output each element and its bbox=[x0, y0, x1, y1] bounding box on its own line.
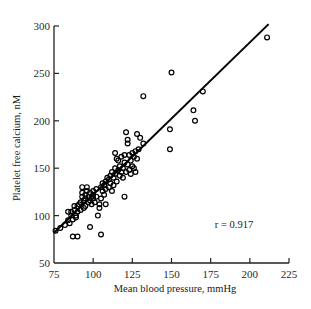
data-point bbox=[124, 130, 129, 135]
data-point bbox=[88, 225, 93, 230]
data-point bbox=[114, 179, 119, 184]
y-tick-label: 150 bbox=[34, 162, 51, 174]
data-point bbox=[103, 202, 108, 207]
data-point bbox=[80, 185, 85, 190]
data-point bbox=[113, 151, 118, 156]
axes bbox=[54, 26, 289, 263]
x-tick-label: 100 bbox=[85, 268, 102, 280]
data-point bbox=[193, 118, 198, 123]
scatter-chart: 50100150200250300 75100125150175200225 r… bbox=[0, 0, 311, 309]
data-point bbox=[265, 35, 270, 40]
x-tick-label: 175 bbox=[202, 268, 219, 280]
y-axis-label: Platelet free calcium, nM bbox=[11, 94, 22, 201]
data-point bbox=[70, 234, 75, 239]
y-tick-label: 100 bbox=[34, 210, 51, 222]
y-tick-label: 250 bbox=[34, 67, 51, 79]
x-tick-label: 200 bbox=[242, 268, 259, 280]
data-point bbox=[168, 127, 173, 132]
x-tick-label: 150 bbox=[163, 268, 180, 280]
data-point bbox=[191, 108, 196, 113]
data-point bbox=[95, 213, 100, 218]
y-tick-label: 200 bbox=[34, 115, 51, 127]
y-tick-label: 300 bbox=[34, 20, 51, 32]
data-point bbox=[99, 232, 104, 237]
data-point bbox=[138, 135, 143, 140]
x-tick-label: 75 bbox=[49, 268, 61, 280]
x-axis-ticks: 75100125150175200225 bbox=[49, 258, 298, 280]
data-point bbox=[141, 94, 146, 99]
data-point bbox=[110, 189, 115, 194]
data-point bbox=[168, 147, 173, 152]
data-point bbox=[200, 89, 205, 94]
data-point bbox=[75, 234, 80, 239]
x-tick-label: 225 bbox=[281, 268, 298, 280]
data-points bbox=[53, 35, 269, 239]
data-point bbox=[122, 194, 127, 199]
correlation-annotation: r = 0.917 bbox=[215, 219, 253, 230]
x-axis-label: Mean blood pressure, mmHg bbox=[114, 283, 237, 294]
x-tick-label: 125 bbox=[124, 268, 141, 280]
data-point bbox=[169, 70, 174, 75]
